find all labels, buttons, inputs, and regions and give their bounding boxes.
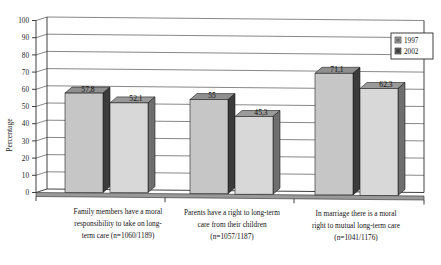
y-tick-0: 0 [25,189,29,197]
bar-group-3: 71,1 62,3 [315,65,405,196]
y-tick-30: 30 [22,138,30,146]
legend-swatch-1997-inner-icon [396,38,400,42]
legend-label-2002: 2002 [404,48,419,56]
bar-2002-cat-2 [235,111,280,195]
y-tick-100: 100 [18,17,29,25]
y-axis-tick-labels: 100 90 80 70 60 50 40 30 20 10 0 [18,17,29,197]
cat-1-line-3: term care (n=1060/1189) [82,231,155,240]
bar-group-2: 55 45,3 [190,91,280,194]
y-tick-90: 90 [22,34,30,42]
cat-3-line-2: right to mutual long-term care [312,221,400,230]
legend-swatch-2002-inner-icon [396,49,400,53]
plot-depth-edges [36,17,47,193]
value-label-1997-cat-2: 55 [208,91,216,100]
y-tick-50: 50 [22,103,30,111]
chart-canvas: 100 90 80 70 60 50 40 30 20 10 0 Percent… [0,0,441,265]
x-axis-category-labels: Family members have a moral responsibili… [74,207,400,242]
cat-2-line-2: care from their children [197,220,266,229]
cat-1-line-1: Family members have a moral [74,207,163,216]
y-tick-80: 80 [22,52,30,60]
y-tick-60: 60 [22,86,30,94]
value-label-2002-cat-3: 62,3 [379,80,392,89]
bar-1997-cat-3 [315,67,360,195]
cat-2-line-3: (n=1057/1187) [210,232,254,241]
value-label-2002-cat-1: 52,1 [129,94,142,103]
y-tick-20: 20 [22,155,30,163]
y-tick-70: 70 [22,69,30,77]
y-tick-10: 10 [22,172,30,180]
value-label-1997-cat-3: 71,1 [330,65,343,74]
cat-1-line-2: responsibility to take on long- [74,219,162,228]
bar-1997-cat-1 [65,87,110,192]
y-tick-40: 40 [22,120,30,128]
y-axis-title: Percentage [5,118,14,152]
bar-1997-cat-2 [190,94,235,194]
y-axis-ticks [32,21,36,193]
bar-group-1: 57,8 52,1 [65,85,155,193]
cat-2-line-1: Parents have a right to long-term [184,208,280,217]
cat-3-line-1: In marriage there is a moral [316,209,397,218]
cat-3-line-3: (n=1041/1176) [334,233,378,242]
bar-chart: 100 90 80 70 60 50 40 30 20 10 0 Percent… [0,0,441,265]
bar-2002-cat-1 [110,97,155,193]
legend[interactable]: 1997 2002 [391,33,433,59]
legend-label-1997: 1997 [404,37,419,45]
bar-2002-cat-3 [360,83,405,196]
value-label-1997-cat-1: 57,8 [81,85,94,94]
value-label-2002-cat-2: 45,3 [254,108,267,117]
